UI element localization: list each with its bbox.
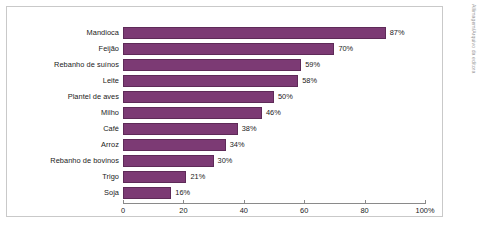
bar-row: Milho46% — [7, 105, 444, 121]
category-label: Plantel de aves — [9, 89, 119, 105]
x-axis-tick — [183, 200, 184, 204]
value-label: 21% — [190, 169, 205, 185]
bar — [123, 171, 186, 183]
bar — [123, 139, 226, 151]
value-label: 59% — [305, 57, 320, 73]
category-label: Leite — [9, 73, 119, 89]
bar-row: Soja16% — [7, 185, 444, 201]
x-axis-tick-label: 80 — [345, 206, 385, 215]
bar-row: Trigo21% — [7, 169, 444, 185]
category-label: Rebanho de bovinos — [9, 153, 119, 169]
x-axis-tick-label: 40 — [224, 206, 264, 215]
bar — [123, 43, 334, 55]
bar — [123, 123, 238, 135]
plot-area: Mandioca87%Feijão70%Rebanho de suínos59%… — [7, 7, 444, 218]
value-label: 34% — [230, 137, 245, 153]
value-label: 30% — [218, 153, 233, 169]
x-axis-tick-label: 100% — [405, 206, 445, 215]
bar — [123, 155, 214, 167]
bar-row: Feijão70% — [7, 41, 444, 57]
x-axis-tick-label: 20 — [163, 206, 203, 215]
bar — [123, 187, 171, 199]
category-label: Trigo — [9, 169, 119, 185]
value-label: 38% — [242, 121, 257, 137]
value-label: 46% — [266, 105, 281, 121]
bar — [123, 91, 274, 103]
image-credit: Allimagem/Arquivo da editora — [471, 4, 477, 73]
value-label: 50% — [278, 89, 293, 105]
bar-row: Rebanho de suínos59% — [7, 57, 444, 73]
x-axis-tick — [365, 200, 366, 204]
bar — [123, 107, 262, 119]
bar — [123, 75, 298, 87]
category-label: Soja — [9, 185, 119, 201]
chart-frame: Mandioca87%Feijão70%Rebanho de suínos59%… — [6, 6, 443, 217]
category-label: Café — [9, 121, 119, 137]
x-axis-tick — [425, 200, 426, 204]
value-label: 70% — [338, 41, 353, 57]
bar-row: Leite58% — [7, 73, 444, 89]
value-label: 58% — [302, 73, 317, 89]
x-axis-tick — [123, 200, 124, 204]
bar-row: Rebanho de bovinos30% — [7, 153, 444, 169]
bar — [123, 59, 301, 71]
bar-row: Café38% — [7, 121, 444, 137]
x-axis-line — [123, 203, 425, 204]
bar-row: Arroz34% — [7, 137, 444, 153]
category-label: Feijão — [9, 41, 119, 57]
bar-row: Plantel de aves50% — [7, 89, 444, 105]
x-axis-tick — [304, 200, 305, 204]
bar-row: Mandioca87% — [7, 25, 444, 41]
value-label: 87% — [390, 25, 405, 41]
category-label: Milho — [9, 105, 119, 121]
category-label: Arroz — [9, 137, 119, 153]
value-label: 16% — [175, 185, 190, 201]
x-axis-tick — [244, 200, 245, 204]
category-label: Mandioca — [9, 25, 119, 41]
bar — [123, 27, 386, 39]
x-axis-tick-label: 0 — [103, 206, 143, 215]
category-label: Rebanho de suínos — [9, 57, 119, 73]
chart-figure: Mandioca87%Feijão70%Rebanho de suínos59%… — [0, 0, 479, 230]
x-axis-tick-label: 60 — [284, 206, 324, 215]
